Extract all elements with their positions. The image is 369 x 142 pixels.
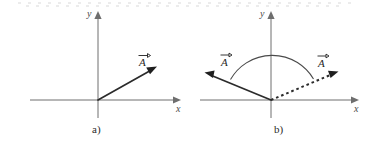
panel-b-vector-A-solid xyxy=(205,71,272,101)
panel-b-vector-A-dashed-label: A xyxy=(317,54,329,69)
panel-a-vector-label: A xyxy=(138,54,151,68)
panel-b-y-axis-label: y xyxy=(259,8,265,19)
panel-a-vector-label-text: A xyxy=(138,56,146,68)
panel-b-x-axis-label: x xyxy=(353,103,359,114)
panel-a-x-axis xyxy=(30,96,181,103)
figure-container: A x y a) xyxy=(0,0,369,142)
panel-b-y-axis xyxy=(267,11,274,118)
panel-a-x-axis-label: x xyxy=(175,103,181,114)
panel-b-vector-A-solid-label-text: A xyxy=(220,56,228,68)
panel-b-vector-A-dashed-label-text: A xyxy=(317,57,325,69)
panel-b: A A x y b) xyxy=(200,8,359,136)
panel-a-vector-A xyxy=(98,67,157,101)
panel-b-x-axis xyxy=(200,96,359,103)
panel-a: A x y a) xyxy=(30,8,181,136)
panel-b-vector-A-dashed xyxy=(271,71,339,100)
vector-diagram-svg: A x y a) xyxy=(0,0,369,142)
panel-a-y-axis xyxy=(94,11,101,118)
panel-a-caption: a) xyxy=(92,123,101,136)
panel-a-y-axis-label: y xyxy=(86,8,92,19)
panel-b-angle-arc xyxy=(231,55,314,79)
panel-b-vector-A-solid-label: A xyxy=(220,53,232,68)
scan-artifact-top xyxy=(18,3,352,6)
panel-b-caption: b) xyxy=(274,123,284,136)
